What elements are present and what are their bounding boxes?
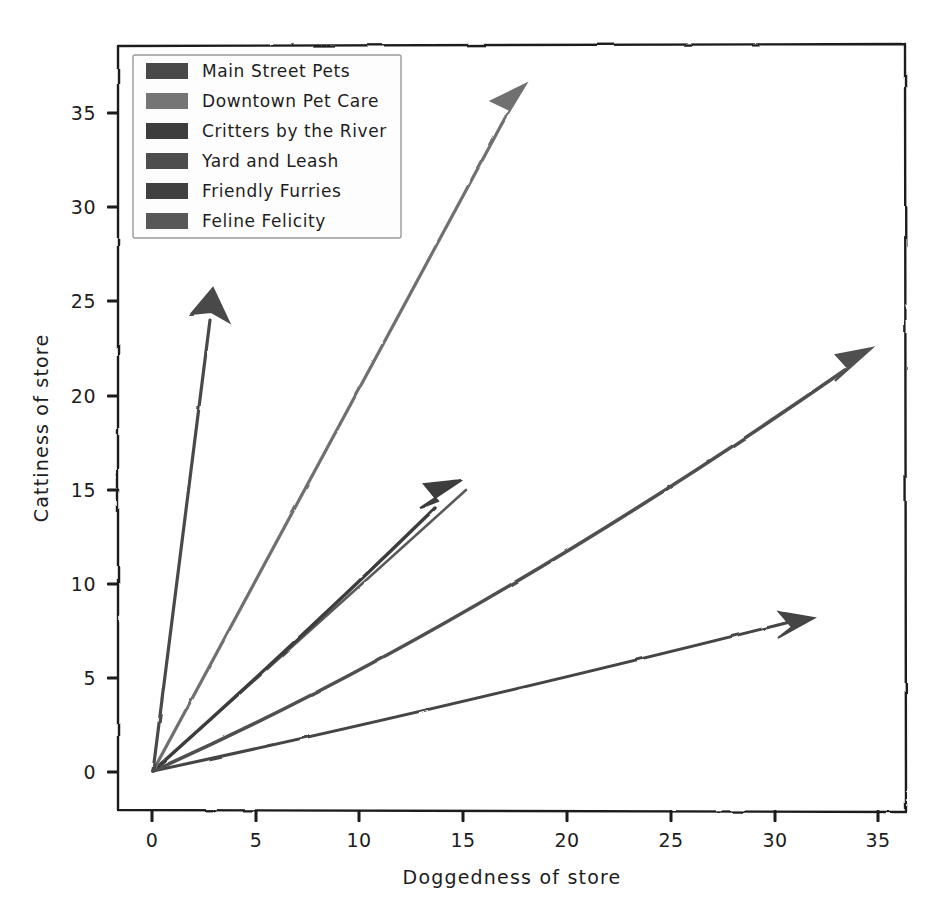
y-tick-label: 5 [83,667,96,689]
y-tick-label: 15 [71,479,96,501]
x-tick-labels: 0 5 10 15 20 25 30 35 [146,829,891,851]
legend-item-label: Yard and Leash [201,151,339,171]
y-tick-label: 30 [71,196,96,218]
x-tick-label: 35 [865,829,890,851]
legend-item-downtown-pet-care[interactable]: Downtown Pet Care [146,91,379,111]
legend-item-yard-and-leash[interactable]: Yard and Leash [146,151,339,171]
legend-swatch-icon [146,153,188,169]
arrow-critters-by-the-river [153,480,462,771]
x-tick-label: 15 [450,829,475,851]
x-tick-label: 25 [658,829,683,851]
arrow-friendly-furries [153,612,814,771]
legend-item-label: Critters by the River [202,121,387,141]
legend-item-label: Downtown Pet Care [202,91,379,111]
legend-item-feline-felicity[interactable]: Feline Felicity [146,211,326,231]
y-tick-label: 25 [71,290,96,312]
legend-item-label: Feline Felicity [202,211,326,231]
chart-canvas: 0 5 10 15 20 25 30 35 0 5 10 15 20 25 30… [0,0,952,908]
x-tick-label: 5 [250,829,263,851]
x-tick-label: 10 [346,829,371,851]
x-tick-label: 0 [146,829,159,851]
legend-swatch-icon [146,213,188,229]
arrow-yard-and-leash [153,348,872,771]
legend-item-label: Friendly Furries [202,181,341,201]
legend-item-critters-by-the-river[interactable]: Critters by the River [146,121,387,141]
legend-swatch-icon [146,183,188,199]
y-axis-ticks [108,113,118,772]
x-axis-title: Doggedness of store [403,866,622,888]
legend-swatch-icon [146,123,188,139]
legend-swatch-icon [146,63,188,79]
y-axis-title: Cattiness of store [30,334,52,523]
legend-swatch-icon [146,93,188,109]
y-tick-label: 10 [71,573,96,595]
y-tick-label: 35 [71,102,96,124]
x-tick-label: 20 [554,829,579,851]
legend-item-friendly-furries[interactable]: Friendly Furries [146,181,341,201]
y-tick-label: 20 [71,385,96,407]
y-tick-labels: 0 5 10 15 20 25 30 35 [71,102,96,783]
arrow-chart: 0 5 10 15 20 25 30 35 0 5 10 15 20 25 30… [0,0,952,908]
legend[interactable]: Main Street Pets Downtown Pet Care Critt… [133,55,401,238]
legend-item-label: Main Street Pets [202,61,350,81]
x-tick-label: 30 [762,829,787,851]
y-tick-label: 0 [83,761,96,783]
legend-item-main-street-pets[interactable]: Main Street Pets [146,61,350,81]
